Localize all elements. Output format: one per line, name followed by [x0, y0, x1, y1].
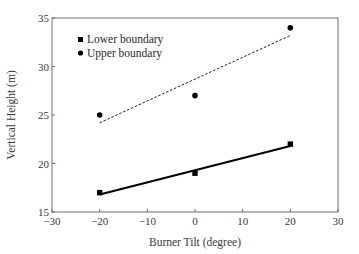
x-axis-label: Burner Tilt (degree): [149, 236, 241, 249]
circle-marker-icon: [78, 50, 83, 55]
square-marker-icon: [78, 37, 83, 42]
x-tick-label: −20: [91, 215, 109, 227]
square-marker-icon: [192, 171, 197, 176]
scatter-chart: −30−20−100102030 1520253035 Burner Tilt …: [0, 0, 359, 254]
square-marker-icon: [97, 190, 102, 195]
y-axis-label: Vertical Height (m): [5, 70, 18, 160]
square-marker-icon: [288, 141, 293, 146]
x-tick-label: 10: [237, 215, 249, 227]
legend: Lower boundary Upper boundary: [78, 33, 164, 60]
lower-trendline: [100, 146, 291, 195]
circle-marker-icon: [192, 93, 198, 99]
x-tick-label: −10: [139, 215, 157, 227]
circle-marker-icon: [288, 25, 294, 31]
x-tick-label: 20: [285, 215, 297, 227]
circle-marker-icon: [97, 112, 103, 118]
y-tick-label: 15: [38, 206, 50, 218]
legend-label-lower: Lower boundary: [87, 33, 164, 46]
x-tick-label: 0: [192, 215, 198, 227]
legend-label-upper: Upper boundary: [87, 47, 162, 60]
y-tick-label: 20: [38, 158, 50, 170]
y-tick-label: 30: [38, 61, 50, 73]
y-tick-label: 35: [38, 12, 50, 24]
x-tick-label: 30: [333, 215, 345, 227]
y-tick-label: 25: [38, 109, 50, 121]
